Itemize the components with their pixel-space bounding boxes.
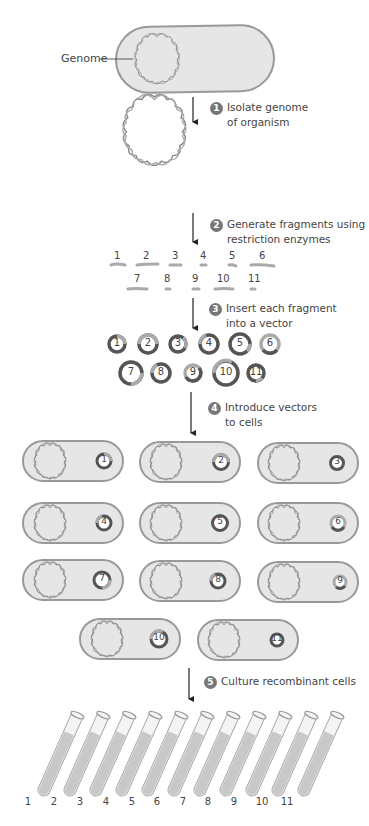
step-1-line2: of organism [210,116,289,128]
cell-vector-label: 2 [214,455,228,465]
vector-label: 5 [233,337,247,348]
tube-label: 3 [73,796,87,807]
step-2-line1: Generate fragments using [227,218,365,230]
tube-label: 8 [201,796,215,807]
genome-label: Genome [61,52,107,65]
cell-vector-label: 7 [95,573,109,583]
vector-label: 11 [249,366,263,377]
vector-label: 7 [124,366,138,377]
tube-label: 7 [176,796,190,807]
step-2-line2: restriction enzymes [210,233,331,245]
step-5-line1: Culture recombinant cells [221,675,356,687]
cell-vector-label: 5 [213,516,227,526]
fragment-label: 5 [229,250,235,261]
vector-label: 8 [154,366,168,377]
tube-label: 4 [99,796,113,807]
fragment-label: 8 [164,273,170,284]
step-1-label: 1Isolate genome of organism [210,100,308,129]
cell-vector-label: 10 [152,632,166,642]
step-2-badge: 2 [210,219,223,232]
fragment-label: 11 [248,273,261,284]
vector-label: 2 [141,337,155,348]
fragment-label: 10 [217,273,230,284]
cell-vector-label: 8 [211,574,225,584]
step-4-badge: 4 [208,402,221,415]
tube-label: 1 [21,796,35,807]
fragment-label: 6 [259,250,265,261]
step-3-line2: into a vector [209,317,293,329]
step-3-label: 3Insert each fragment into a vector [209,301,337,330]
fragment-label: 4 [200,250,206,261]
vector-label: 3 [171,337,185,348]
step-4-label: 4Introduce vectors to cells [208,400,317,429]
cell-vector-label: 3 [330,456,344,466]
fragment-label: 9 [192,273,198,284]
fragment-label: 1 [114,250,120,261]
tube-label: 10 [253,796,271,807]
cell-vector-label: 9 [333,575,347,585]
vector-label: 10 [219,366,233,377]
step-5-badge: 5 [204,676,217,689]
fragment-label: 2 [143,250,149,261]
fragment-label: 3 [172,250,178,261]
vector-label: 1 [110,337,124,348]
cell-vector-label: 4 [97,516,111,526]
cell-vector-label: 6 [331,516,345,526]
step-1-line1: Isolate genome [227,101,308,113]
tube-label: 9 [227,796,241,807]
step-3-line1: Insert each fragment [226,302,337,314]
cell-vector-label: 11 [270,633,284,643]
step-2-label: 2Generate fragments using restriction en… [210,217,365,246]
cell-vector-label: 1 [97,454,111,464]
vector-label: 9 [186,366,200,377]
vector-label: 6 [263,337,277,348]
tube-label: 5 [125,796,139,807]
step-5-label: 5Culture recombinant cells [204,674,356,689]
step-3-badge: 3 [209,303,222,316]
step-4-line1: Introduce vectors [225,401,317,413]
vector-label: 4 [202,337,216,348]
fragment-label: 7 [134,273,140,284]
tube-label: 11 [278,796,296,807]
tube-label: 2 [47,796,61,807]
step-1-badge: 1 [210,102,223,115]
step-4-line2: to cells [208,416,262,428]
tube-label: 6 [150,796,164,807]
